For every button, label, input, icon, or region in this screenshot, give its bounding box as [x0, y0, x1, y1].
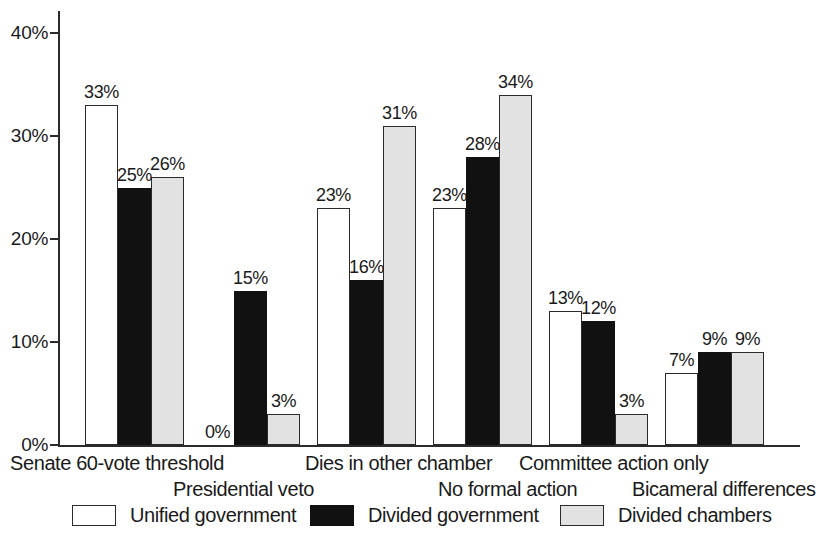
category-label: Bicameral differences	[632, 478, 816, 500]
bar-value-label: 23%	[424, 186, 475, 204]
bar-value-label: 12%	[573, 299, 624, 317]
bar-value-label: 26%	[142, 155, 193, 173]
bar	[234, 291, 267, 446]
y-axis-line	[58, 11, 60, 447]
bar-value-label: 34%	[490, 73, 541, 91]
y-axis-tick	[50, 135, 59, 137]
bar	[615, 414, 648, 445]
category-label: Committee action only	[519, 452, 708, 474]
x-axis-line	[58, 445, 800, 447]
bar-value-label: 3%	[258, 392, 309, 410]
bar	[383, 126, 416, 445]
bar	[267, 414, 300, 445]
bar-value-label: 16%	[341, 258, 392, 276]
bar	[118, 188, 151, 446]
legend-item: Divided government	[310, 500, 539, 530]
y-axis-tick	[50, 238, 59, 240]
legend-swatch-icon	[310, 505, 354, 526]
category-label: Presidential veto	[173, 478, 314, 500]
category-label: Dies in other chamber	[305, 452, 492, 474]
chart-legend: Unified governmentDivided governmentDivi…	[0, 500, 822, 537]
legend-label: Unified government	[130, 504, 296, 526]
y-axis-tick-label: 30%	[0, 126, 48, 145]
bar	[665, 373, 698, 445]
legend-label: Divided government	[368, 504, 539, 526]
y-axis-tick-label: 20%	[0, 229, 48, 248]
bar	[151, 177, 184, 445]
legend-label: Divided chambers	[618, 504, 772, 526]
legend-swatch-icon	[560, 505, 604, 526]
bar	[85, 105, 118, 445]
bar-value-label: 9%	[722, 330, 773, 348]
legend-item: Unified government	[72, 500, 296, 530]
legend-item: Divided chambers	[560, 500, 772, 530]
y-axis-tick-label: 40%	[0, 23, 48, 42]
bar-value-label: 28%	[457, 135, 508, 153]
bar	[317, 208, 350, 445]
legend-swatch-icon	[72, 505, 116, 526]
bar-value-label: 31%	[374, 104, 425, 122]
bar-value-label: 15%	[225, 269, 276, 287]
bar-value-label: 0%	[192, 423, 243, 441]
y-axis-tick	[50, 32, 59, 34]
bar	[582, 321, 615, 445]
category-label: No formal action	[438, 478, 577, 500]
bar	[731, 352, 764, 445]
y-axis-tick-label: 10%	[0, 332, 48, 351]
bar-value-label: 23%	[308, 186, 359, 204]
bar-value-label: 33%	[76, 83, 127, 101]
bar	[350, 280, 383, 445]
bar-chart: 0%10%20%30%40% 33%25%26%0%15%3%23%16%31%…	[0, 0, 822, 537]
bar	[433, 208, 466, 445]
bar-value-label: 3%	[606, 392, 657, 410]
plot-area: 0%10%20%30%40% 33%25%26%0%15%3%23%16%31%…	[0, 0, 822, 470]
category-label: Senate 60-vote threshold	[10, 452, 224, 474]
bar-value-label: 7%	[656, 351, 707, 369]
y-axis-tick	[50, 444, 59, 446]
y-axis-tick	[50, 341, 59, 343]
bar	[549, 311, 582, 445]
